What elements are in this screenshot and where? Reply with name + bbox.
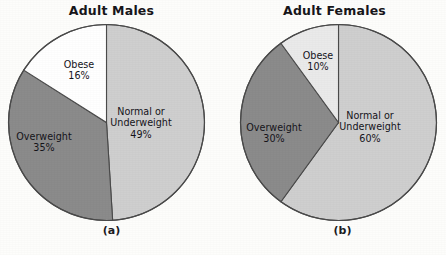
pie-slice-normal-underweight <box>107 24 205 220</box>
pie-adult-females <box>239 23 438 222</box>
panel-letter-b: (b) <box>231 224 446 237</box>
panel-letter-a: (a) <box>0 224 223 237</box>
panel-adult-females: Adult Females (b) <box>223 0 446 255</box>
pie-svg-adult-males <box>7 23 206 222</box>
chart-title-adult-males: Adult Males <box>0 3 223 18</box>
pie-svg-adult-females <box>239 23 438 222</box>
chart-title-adult-females: Adult Females <box>223 3 446 18</box>
panel-adult-males: Adult Males (a) <box>0 0 223 255</box>
pie-chart-figure: Adult Males (a) Adult Females <box>0 0 446 255</box>
pie-adult-males <box>7 23 206 222</box>
